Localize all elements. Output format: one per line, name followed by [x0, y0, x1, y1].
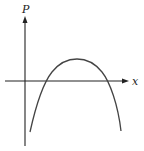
parabola-diagram: P x: [0, 0, 144, 151]
y-axis-label: P: [21, 3, 30, 16]
x-axis-label: x: [132, 75, 139, 88]
parabola-curve: [30, 59, 121, 132]
y-axis-arrow-icon: [23, 16, 28, 23]
x-axis-arrow-icon: [122, 79, 129, 84]
